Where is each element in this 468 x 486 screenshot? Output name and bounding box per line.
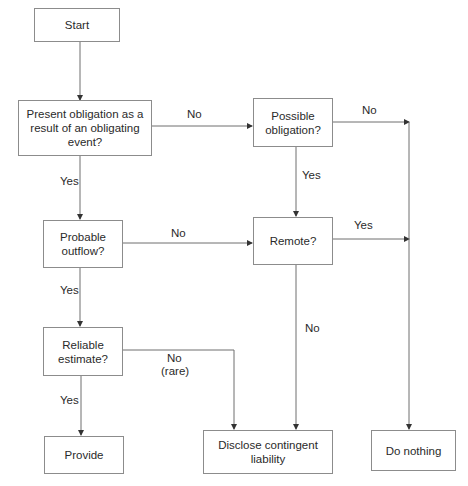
node-possible-obligation: Possible obligation?: [253, 98, 333, 147]
edge-label-remote-yes: Yes: [354, 218, 373, 232]
node-do-nothing-label: Do nothing: [386, 444, 442, 458]
node-remote: Remote?: [253, 217, 333, 265]
edge-label-present-yes: Yes: [60, 174, 79, 188]
node-disclose-label: Disclose contingent liability: [208, 438, 328, 466]
node-do-nothing: Do nothing: [371, 430, 456, 471]
node-present-obligation: Present obligation as a result of an obl…: [18, 100, 152, 156]
edge-label-possible-yes: Yes: [302, 168, 321, 182]
edge-label-reliable-no-note: (rare): [161, 364, 189, 378]
node-reliable-estimate-label: Reliable estimate?: [48, 338, 118, 366]
node-reliable-estimate: Reliable estimate?: [43, 327, 123, 376]
node-disclose-contingent-liability: Disclose contingent liability: [203, 430, 333, 474]
node-provide-label: Provide: [65, 448, 104, 462]
node-remote-label: Remote?: [270, 234, 317, 248]
node-present-obligation-label: Present obligation as a result of an obl…: [23, 107, 147, 149]
node-start: Start: [34, 8, 120, 42]
edge-label-possible-no: No: [362, 103, 377, 117]
node-start-label: Start: [65, 18, 89, 32]
node-possible-obligation-label: Possible obligation?: [258, 109, 328, 137]
edge-label-present-no: No: [187, 107, 202, 121]
flowchart: Start Present obligation as a result of …: [0, 0, 468, 486]
edge-label-reliable-yes: Yes: [60, 393, 79, 407]
edge-label-remote-no: No: [305, 321, 320, 335]
edge-label-probable-yes: Yes: [60, 283, 79, 297]
node-probable-outflow: Probable outflow?: [43, 220, 123, 268]
edge-label-reliable-no: No: [167, 351, 182, 365]
edge-label-probable-no: No: [171, 226, 186, 240]
node-probable-outflow-label: Probable outflow?: [48, 230, 118, 258]
node-provide: Provide: [44, 436, 124, 474]
